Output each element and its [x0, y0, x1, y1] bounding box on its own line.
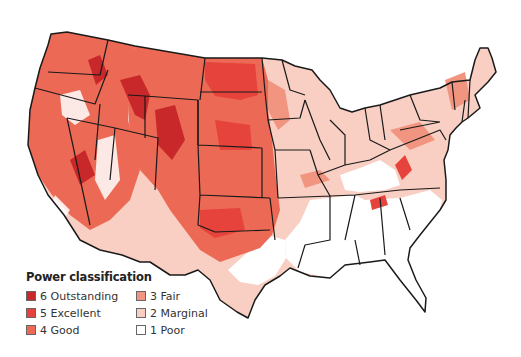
- legend-item-poor: 1 Poor: [136, 323, 226, 337]
- zone-poor-southeast: [285, 190, 442, 312]
- legend-title: Power classification: [26, 270, 226, 284]
- legend-label: 5 Excellent: [40, 307, 101, 320]
- legend-label: 6 Outstanding: [40, 290, 118, 303]
- legend-item-outstanding: 6 Outstanding: [26, 289, 136, 303]
- legend-label: 4 Good: [40, 324, 79, 337]
- swatch-poor: [136, 325, 146, 335]
- swatch-good: [26, 325, 36, 335]
- legend-item-good: 4 Good: [26, 323, 136, 337]
- legend-label: 1 Poor: [150, 324, 185, 337]
- swatch-excellent: [26, 308, 36, 318]
- legend-label: 2 Marginal: [150, 307, 208, 320]
- legend-item-fair: 3 Fair: [136, 289, 226, 303]
- legend-item-excellent: 5 Excellent: [26, 306, 136, 320]
- swatch-fair: [136, 291, 146, 301]
- zone-good-west: [28, 32, 140, 230]
- legend-label: 3 Fair: [150, 290, 180, 303]
- legend-item-marginal: 2 Marginal: [136, 306, 226, 320]
- swatch-marginal: [136, 308, 146, 318]
- legend: Power classification 6 Outstanding 3 Fai…: [26, 270, 226, 337]
- swatch-outstanding: [26, 291, 36, 301]
